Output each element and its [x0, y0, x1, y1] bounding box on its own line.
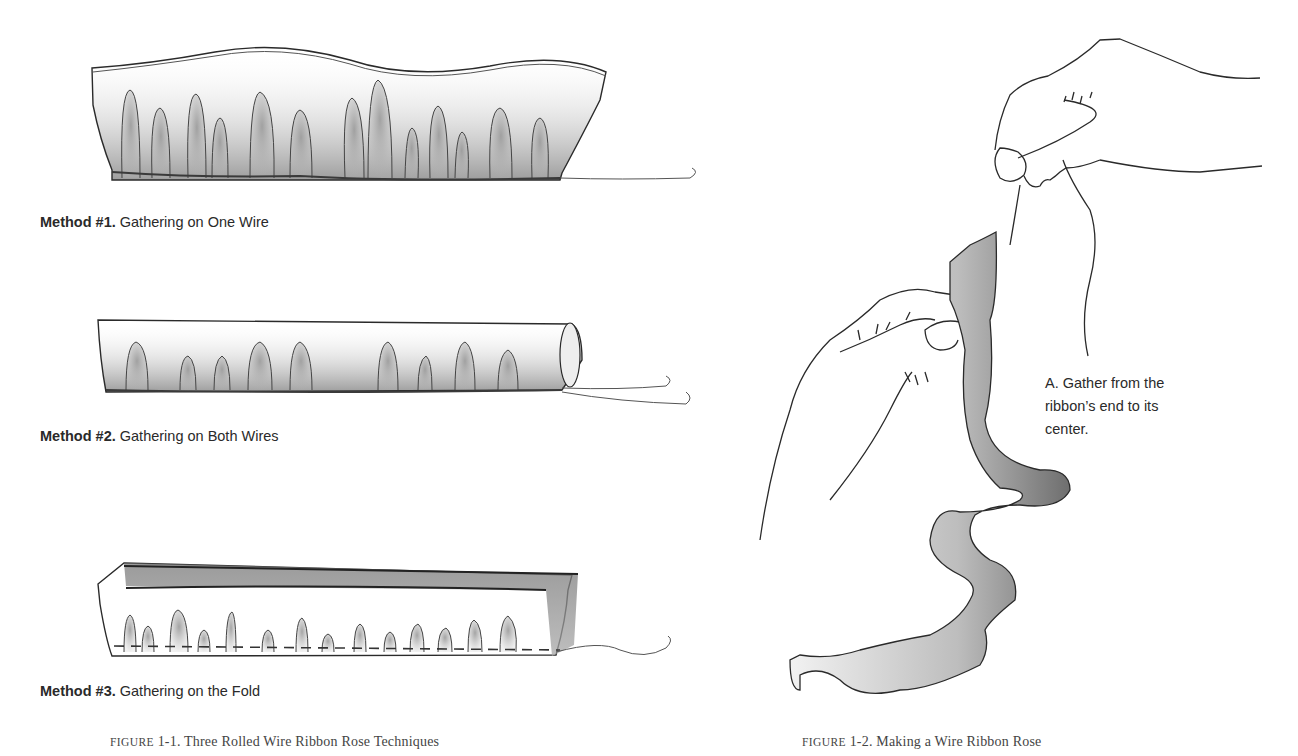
figure-1-1-caption: FIGURE 1-1. Three Rolled Wire Ribbon Ros… [110, 734, 439, 750]
figure-1-2-title: 1-2. Making a Wire Ribbon Rose [850, 734, 1042, 749]
method-1-ribbon-drawing [92, 48, 696, 181]
method-2-text: Gathering on Both Wires [120, 428, 279, 444]
method-2-ribbon-drawing [98, 320, 690, 404]
step-a-line-1: A. Gather from the [1045, 372, 1215, 395]
step-a-line-2: ribbon’s end to its [1045, 395, 1215, 418]
method-3-caption: Method #3. Gathering on the Fold [40, 683, 260, 699]
method-2-caption: Method #2. Gathering on Both Wires [40, 428, 279, 444]
step-a-note: A. Gather from the ribbon’s end to its c… [1045, 372, 1215, 441]
figure-1-1-title: 1-1. Three Rolled Wire Ribbon Rose Techn… [158, 734, 440, 749]
figure-1-2-prefix: FIGURE [802, 736, 846, 748]
step-a-line-3: center. [1045, 418, 1215, 441]
figure-1-2-caption: FIGURE 1-2. Making a Wire Ribbon Rose [802, 734, 1041, 750]
wire-ribbon-rose-drawing [760, 39, 1262, 693]
method-1-caption: Method #1. Gathering on One Wire [40, 214, 269, 230]
method-3-label: Method #3. [40, 683, 116, 699]
method-3-text: Gathering on the Fold [120, 683, 260, 699]
method-1-label: Method #1. [40, 214, 116, 230]
method-3-ribbon-drawing [98, 563, 671, 656]
figure-1-1-prefix: FIGURE [110, 736, 154, 748]
method-2-label: Method #2. [40, 428, 116, 444]
method-1-text: Gathering on One Wire [120, 214, 269, 230]
